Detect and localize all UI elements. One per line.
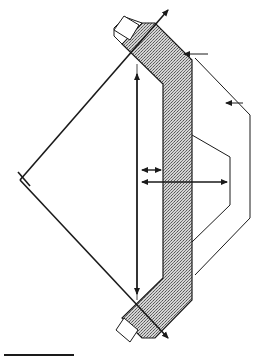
upper-diagonal-line bbox=[20, 10, 168, 180]
hatched-band bbox=[122, 23, 192, 338]
diagram-canvas bbox=[0, 0, 273, 360]
lower-diagonal-line bbox=[20, 180, 168, 338]
inner-outline bbox=[192, 135, 230, 242]
diagram-stage: Cross-section of a bent shielded element… bbox=[0, 0, 273, 360]
outer-outline bbox=[195, 58, 250, 275]
